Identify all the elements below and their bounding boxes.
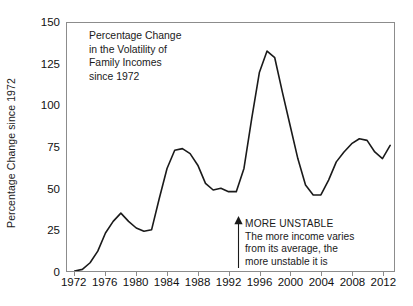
annotation-line-2: from its average, the (245, 243, 354, 256)
x-tick-mark-1976 (105, 271, 106, 276)
title-line-4: since 1972 (89, 70, 181, 84)
y-tick-label-75: 75 (16, 141, 60, 153)
chart-figure: Percentage Change since 1972 02550751001… (0, 0, 413, 306)
up-arrow-icon (233, 216, 244, 268)
x-tick-mark-1984 (167, 271, 168, 276)
x-tick-mark-2000 (290, 271, 291, 276)
x-tick-mark-1980 (136, 271, 137, 276)
x-tick-mark-1972 (74, 271, 75, 276)
annotation-block: MORE UNSTABLE The more income varies fro… (245, 218, 354, 268)
annotation-line-3: more unstable it is (245, 256, 354, 269)
x-axis-ticks: 1972197619801984198819921996200020042008… (0, 276, 413, 298)
y-axis-label: Percentage Change since 1972 (0, 0, 22, 306)
annotation-line-1: The more income varies (245, 231, 354, 244)
x-tick-mark-2008 (352, 271, 353, 276)
x-tick-mark-2004 (321, 271, 322, 276)
title-line-3: Family Incomes (89, 56, 181, 70)
y-tick-label-25: 25 (16, 224, 60, 236)
y-tick-label-150: 150 (16, 16, 60, 28)
y-tick-label-50: 50 (16, 183, 60, 195)
x-tick-mark-1988 (198, 271, 199, 276)
x-tick-mark-2012 (383, 271, 384, 276)
x-tick-mark-1992 (229, 271, 230, 276)
x-tick-mark-1996 (260, 271, 261, 276)
y-tick-label-100: 100 (16, 99, 60, 111)
title-line-2: in the Volatility of (89, 43, 181, 57)
annotation-heading: MORE UNSTABLE (245, 218, 354, 231)
chart-title-block: Percentage Change in the Volatility of F… (89, 29, 181, 83)
title-line-1: Percentage Change (89, 29, 181, 43)
x-tick-label-2012: 2012 (358, 276, 408, 288)
y-tick-label-125: 125 (16, 58, 60, 70)
